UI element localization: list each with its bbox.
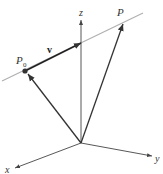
point-p-label: P	[116, 6, 124, 18]
line-diagram: z x y P 0 P v	[0, 0, 163, 174]
vector-r0	[28, 74, 81, 143]
x-axis	[15, 143, 81, 168]
y-axis	[81, 143, 152, 156]
point-p0-subscript: 0	[23, 61, 27, 69]
vector-v-label: v	[47, 44, 52, 55]
y-axis-label: y	[154, 153, 160, 164]
vector-v	[25, 43, 81, 71]
point-p0-label: P	[15, 54, 23, 66]
point-p0	[22, 68, 27, 73]
vector-r	[81, 24, 123, 143]
z-axis-label: z	[78, 7, 83, 18]
x-axis-label: x	[4, 164, 10, 174]
